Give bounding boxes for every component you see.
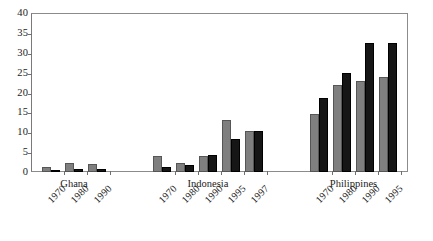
x-axis-year-label: 1970 bbox=[157, 183, 179, 205]
y-axis-tick-mark bbox=[28, 74, 32, 75]
x-axis-tick-mark bbox=[198, 171, 199, 175]
y-axis-tick-label: 0 bbox=[0, 167, 28, 178]
x-axis-tick-mark bbox=[175, 171, 176, 175]
x-axis-tick-mark bbox=[64, 171, 65, 175]
x-axis-year-label: 1995 bbox=[226, 183, 248, 205]
y-axis-tick-label: 20 bbox=[0, 87, 28, 98]
x-axis-year-label: 1970 bbox=[46, 183, 68, 205]
x-axis-year-label: 1995 bbox=[383, 183, 405, 205]
x-axis-tick-mark bbox=[87, 171, 88, 175]
x-axis-tick-mark bbox=[110, 171, 111, 175]
x-axis-tick-mark bbox=[378, 171, 379, 175]
y-axis-tick-mark bbox=[28, 34, 32, 35]
x-axis-tick-mark bbox=[221, 171, 222, 175]
y-axis-tick-label: 5 bbox=[0, 147, 28, 158]
x-axis-tick-mark bbox=[332, 171, 333, 175]
x-axis-tick-mark bbox=[267, 171, 268, 175]
x-axis-year-label: 1997 bbox=[249, 183, 271, 205]
y-axis-tick-mark bbox=[28, 94, 32, 95]
y-axis-tick-labels: 0510152025303540 bbox=[0, 0, 28, 241]
x-axis-year-label: 1990 bbox=[92, 183, 114, 205]
x-axis-tick-mark bbox=[401, 171, 402, 175]
x-axis-tick-mark bbox=[355, 171, 356, 175]
y-axis-tick-mark bbox=[28, 113, 32, 114]
y-axis-tick-label: 40 bbox=[0, 8, 28, 19]
y-axis-tick-label: 10 bbox=[0, 127, 28, 138]
y-axis-tick-mark bbox=[28, 54, 32, 55]
y-axis-tick-label: 15 bbox=[0, 107, 28, 118]
y-axis-tick-label: 25 bbox=[0, 67, 28, 78]
bar-chart: 0510152025303540 GhanaIndonesiaPhilippin… bbox=[0, 0, 433, 241]
y-axis-tick-mark bbox=[28, 133, 32, 134]
y-axis-tick-label: 30 bbox=[0, 48, 28, 59]
x-axis-year-label: 1980 bbox=[180, 183, 202, 205]
x-axis-tick-mark bbox=[244, 171, 245, 175]
y-axis-tick-label: 35 bbox=[0, 28, 28, 39]
x-axis-year-label: 1970 bbox=[314, 183, 336, 205]
y-axis-tick-mark bbox=[28, 153, 32, 154]
plot-area bbox=[31, 13, 408, 172]
